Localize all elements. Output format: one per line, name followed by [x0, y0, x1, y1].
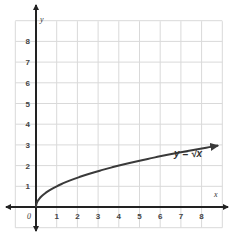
x-tick-label: 6: [158, 212, 163, 221]
x-tick-label: 4: [117, 212, 122, 221]
axis-labels: yxy = √x: [39, 15, 218, 199]
y-tick-label: 2: [26, 162, 31, 171]
y-tick-label: 1: [26, 182, 31, 191]
y-tick-label: 5: [26, 100, 31, 109]
y-tick-label: 7: [26, 58, 31, 67]
origin-label: 0: [27, 212, 31, 221]
x-tick-label: 7: [179, 212, 184, 221]
y-tick-label: 8: [26, 37, 31, 46]
curve-equation-label: y = √x: [173, 148, 202, 159]
tick-labels: 12345678123456780: [26, 37, 205, 221]
y-axis-label: y: [39, 15, 44, 24]
y-tick-label: 6: [26, 79, 31, 88]
y-tick-label: 4: [26, 120, 31, 129]
grid-lines: [15, 21, 222, 228]
x-tick-label: 5: [137, 212, 142, 221]
sqrt-function-graph: 12345678123456780 yxy = √x: [0, 0, 236, 238]
x-axis-label: x: [213, 190, 218, 199]
y-tick-label: 3: [26, 141, 31, 150]
x-tick-label: 2: [75, 212, 80, 221]
x-tick-label: 3: [96, 212, 101, 221]
x-tick-label: 8: [199, 212, 204, 221]
x-tick-label: 1: [54, 212, 59, 221]
axes: [6, 5, 228, 231]
